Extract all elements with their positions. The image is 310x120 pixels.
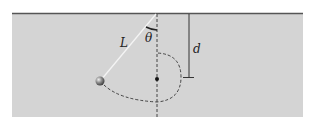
- peg-dot: [155, 77, 159, 81]
- pendulum-diagram: L θ d: [0, 0, 310, 120]
- pendulum-ball: [96, 77, 105, 86]
- length-label: L: [119, 36, 128, 50]
- angle-label: θ: [145, 31, 153, 45]
- distance-label: d: [193, 42, 201, 56]
- background-panel: [12, 13, 303, 117]
